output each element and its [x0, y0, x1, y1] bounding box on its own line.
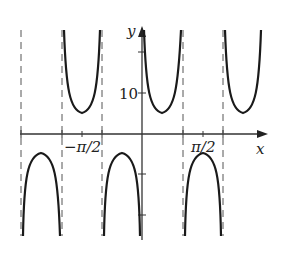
asymptotes	[21, 30, 223, 236]
function-graph: y x 10 −π/2 π/2	[0, 0, 283, 254]
upper-branch	[225, 30, 261, 113]
y-axis-label: y	[126, 22, 136, 40]
y-tick-label-10: 10	[119, 85, 138, 103]
upper-branch	[144, 30, 181, 113]
x-axis-arrow-icon	[257, 130, 268, 138]
lower-branch	[104, 153, 140, 236]
lower-branch	[185, 153, 221, 236]
x-tick-label-neg-half-pi: −π/2	[64, 138, 101, 156]
lower-branch	[23, 153, 60, 236]
x-axis-label: x	[256, 140, 265, 158]
x-tick-label-half-pi: π/2	[190, 138, 215, 156]
upper-branch	[64, 30, 100, 113]
